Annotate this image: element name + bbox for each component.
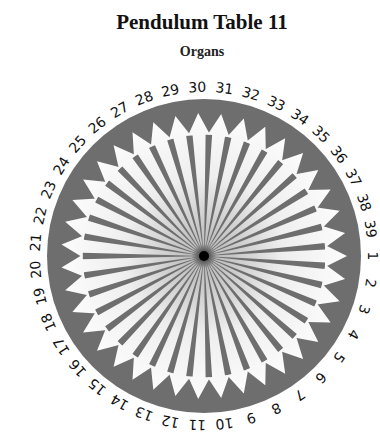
label-17: 17 [50,334,73,358]
label-32: 32 [240,84,262,104]
label-30: 30 [188,79,206,96]
label-22: 22 [30,205,50,226]
label-21: 21 [27,233,44,252]
label-14: 14 [108,391,132,414]
label-26: 26 [85,113,109,137]
label-34: 34 [288,105,312,128]
label-6: 6 [312,369,330,387]
label-31: 31 [215,79,235,97]
label-25: 25 [66,132,90,156]
label-13: 13 [133,403,155,424]
label-15: 15 [85,375,109,399]
label-7: 7 [292,386,308,404]
label-35: 35 [309,122,333,146]
label-2: 2 [362,277,379,288]
label-1: 1 [365,252,380,261]
label-28: 28 [133,87,155,108]
center-dot [199,251,209,261]
label-3: 3 [355,303,373,317]
label-24: 24 [50,154,73,178]
label-16: 16 [66,356,90,380]
label-5: 5 [330,349,348,366]
label-39: 39 [361,219,380,239]
label-20: 20 [27,260,44,279]
label-27: 27 [108,98,131,121]
label-36: 36 [327,143,351,167]
label-9: 9 [244,409,257,427]
label-8: 8 [269,400,284,418]
label-10: 10 [215,415,235,433]
label-38: 38 [354,192,375,214]
label-19: 19 [30,286,50,307]
label-29: 29 [160,81,181,100]
label-18: 18 [38,311,60,334]
label-23: 23 [38,178,60,201]
label-4: 4 [344,327,362,342]
pendulum-wheel: 1234567891011121314151617181920212223242… [0,0,380,437]
label-11: 11 [188,417,206,434]
label-33: 33 [265,92,288,114]
label-37: 37 [342,166,364,189]
label-12: 12 [160,412,181,431]
